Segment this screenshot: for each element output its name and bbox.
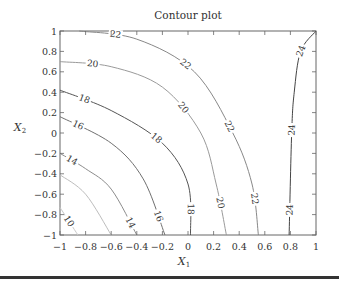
contour-label: 22 [249,192,260,205]
x-tick-label: −0.4 [125,241,148,252]
contour-label: 24 [287,124,297,136]
y-tick-label: 0 [51,128,57,139]
y-tick-label: 0.2 [42,107,57,118]
x-tick-label: −0.8 [74,241,97,252]
y-tick-label: −0.6 [34,189,57,200]
x-tick-label: 0.6 [257,241,272,252]
contour-label: 24 [285,204,295,216]
y-axis-label: X2 [13,121,26,135]
x-axis-label: X1 [177,255,190,269]
y-tick-label: 0.6 [42,66,57,77]
y-axis-tick-labels: 10.80.60.40.20−0.2−0.4−0.6−0.8−1 [34,26,57,241]
x-tick-label: 1 [313,241,319,252]
plot-area: 101414161618181820202022222222242424 [60,28,316,235]
x-tick-label: 0.2 [206,241,221,252]
x-tick-label: 0 [185,241,191,252]
contour-labels: 101414161618181820202022222222242424 [61,28,308,231]
x-tick-label: −0.6 [100,241,123,252]
contour-label: 20 [86,58,99,69]
y-tick-label: 0.4 [42,87,57,98]
chart-title: Contour plot [154,9,222,21]
x-tick-label: −0.2 [151,241,174,252]
contour-line-20 [60,62,226,235]
x-tick-label: −1 [53,241,67,252]
bottom-rule [0,276,339,279]
contour-line-16 [60,117,165,235]
x-axis-tick-labels: −1−0.8−0.6−0.4−0.200.20.40.60.81 [53,241,319,252]
x-tick-label: 0.4 [232,241,247,252]
contour-label: 14 [65,153,80,168]
contour-label: 18 [186,203,196,215]
contour-label: 22 [178,57,193,72]
y-tick-label: −1 [43,230,57,241]
x-tick-label: 0.8 [283,241,298,252]
contour-label: 10 [62,214,77,229]
y-tick-label: −0.4 [34,168,57,179]
y-tick-label: 1 [51,26,57,37]
y-tick-label: 0.8 [42,46,57,57]
contour-chart: Contour plot 101414161618181820202022222… [0,0,339,285]
contour-label: 20 [214,196,226,209]
y-tick-label: −0.8 [34,209,57,220]
y-tick-label: −0.2 [34,148,57,159]
